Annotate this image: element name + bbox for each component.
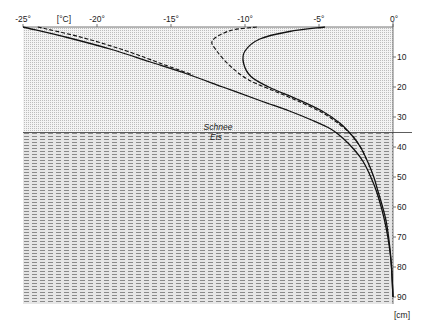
snow-layer bbox=[23, 27, 393, 132]
y-tick-label: 90 bbox=[397, 292, 407, 302]
y-tick-label: 50 bbox=[397, 172, 407, 182]
y-tick-label: 10 bbox=[397, 52, 407, 62]
ice-layer bbox=[23, 132, 393, 304]
temperature-depth-chart: -25° [°C] -20° -15° -10° -5° 0° 10 20 30… bbox=[0, 0, 428, 332]
y-tick-label: 40 bbox=[397, 142, 407, 152]
y-tick-label: 60 bbox=[397, 202, 407, 212]
x-tick-label: 0° bbox=[390, 14, 398, 24]
x-tick-label: -15° bbox=[163, 14, 179, 24]
y-tick-label: 70 bbox=[397, 232, 407, 242]
x-unit-label: [°C] bbox=[57, 14, 71, 24]
y-tick-label: 20 bbox=[397, 82, 407, 92]
x-tick-label: -10° bbox=[237, 14, 253, 24]
snow-label: Schnee bbox=[204, 122, 233, 132]
y-tick-label: 80 bbox=[397, 262, 407, 272]
y-tick-label: 30 bbox=[397, 112, 407, 122]
x-ticks bbox=[23, 24, 393, 27]
ice-label: Eis bbox=[210, 132, 223, 142]
x-tick-label: -20° bbox=[89, 14, 105, 24]
x-tick-label: -5° bbox=[314, 14, 325, 24]
x-tick-label: -25° bbox=[15, 14, 31, 24]
y-ticks bbox=[393, 57, 396, 297]
y-unit-label: [cm] bbox=[394, 310, 410, 320]
